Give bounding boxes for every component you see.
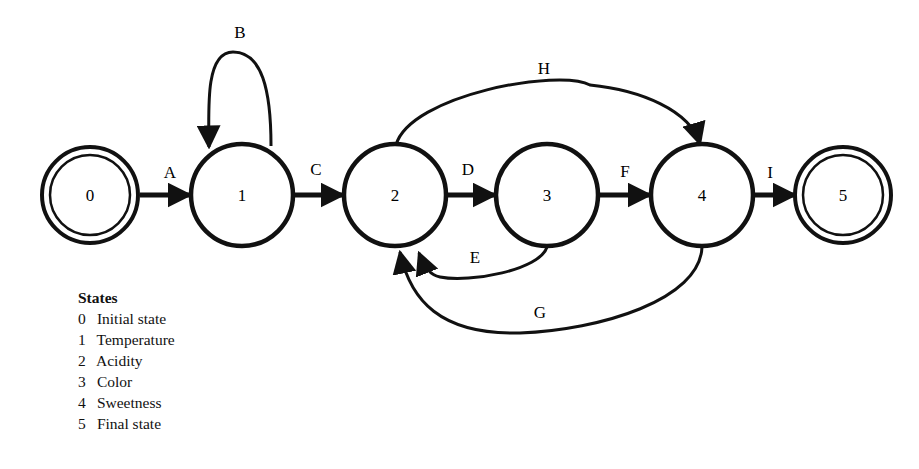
node-4: 4 — [651, 144, 753, 246]
edge-d: D — [447, 160, 495, 195]
node-label-2: 2 — [391, 186, 400, 205]
edge-h: H — [396, 59, 700, 145]
node-5: 5 — [795, 147, 891, 243]
node-label-5: 5 — [839, 186, 848, 205]
edge-a: A — [140, 163, 190, 195]
legend-item: 4 Sweetness — [78, 392, 175, 413]
legend-item: 2 Acidity — [78, 350, 175, 371]
legend-item: 3 Color — [78, 371, 175, 392]
node-0: 0 — [42, 147, 138, 243]
edge-i: I — [753, 163, 795, 195]
edge-g: G — [400, 247, 702, 333]
node-2: 2 — [344, 144, 446, 246]
node-label-4: 4 — [698, 186, 707, 205]
legend-item: 5 Final state — [78, 413, 175, 434]
node-label-0: 0 — [86, 186, 95, 205]
edge-label-d: D — [462, 160, 474, 179]
edge-c: C — [294, 160, 343, 195]
node-1: 1 — [191, 144, 293, 246]
edge-label-c: C — [310, 160, 321, 179]
edge-e: E — [419, 247, 547, 278]
edge-label-h: H — [538, 59, 550, 78]
edge-f: F — [599, 162, 650, 195]
edge-label-e: E — [470, 248, 480, 267]
edge-label-a: A — [164, 163, 177, 182]
edge-label-i: I — [767, 163, 773, 182]
node-label-3: 3 — [543, 186, 552, 205]
legend-title: States — [78, 287, 175, 308]
states-legend: States 0 Initial state 1 Temperature 2 A… — [78, 287, 175, 434]
edge-label-g: G — [534, 303, 546, 322]
edge-label-b: B — [234, 23, 245, 42]
edge-b: B — [209, 23, 271, 147]
node-label-1: 1 — [238, 186, 247, 205]
legend-item: 1 Temperature — [78, 329, 175, 350]
node-3: 3 — [496, 144, 598, 246]
legend-item: 0 Initial state — [78, 308, 175, 329]
edge-label-f: F — [620, 162, 629, 181]
